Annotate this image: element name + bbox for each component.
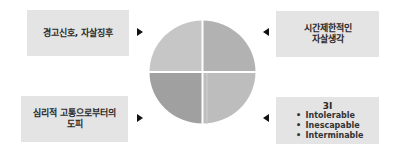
three-i-title: 3I: [323, 101, 333, 111]
list-item: •Inescapable: [292, 121, 364, 131]
quadrant-bottom-right: [203, 72, 256, 124]
warning-signs-box: 경고신호, 자살징후: [27, 10, 129, 56]
list-item: •Intolerable: [292, 111, 364, 121]
warning-signs-label: 경고신호, 자살징후: [43, 28, 114, 39]
list-item: •Interminable: [292, 131, 364, 141]
escape-from-pain-box: 심리적 고통으로부터의 도피: [21, 96, 128, 142]
arrow-left-icon: [263, 28, 269, 36]
time-limited-ideation-line-1: 시간제한적인: [304, 23, 352, 34]
escape-from-pain-line-1: 심리적 고통으로부터의: [33, 108, 116, 119]
time-limited-ideation-box: 시간제한적인 자살생각: [276, 11, 379, 57]
quadrant-top-left: [150, 21, 203, 73]
time-limited-ideation-line-2: 자살생각: [312, 34, 344, 45]
three-i-box: 3I •Intolerable •Inescapable •Interminab…: [276, 97, 379, 144]
quadrant-bottom-left: [150, 72, 203, 124]
escape-from-pain-line-2: 도피: [67, 119, 83, 130]
bullet-icon: •: [292, 111, 306, 121]
bullet-icon: •: [292, 131, 306, 141]
bullet-icon: •: [292, 121, 306, 131]
arrow-left-icon: [263, 114, 269, 122]
quadrant-circle: [149, 20, 256, 124]
quadrant-top-right: [203, 21, 256, 73]
three-i-list: •Intolerable •Inescapable •Interminable: [292, 111, 364, 141]
arrow-right-icon: [137, 114, 143, 122]
arrow-right-icon: [137, 28, 143, 36]
